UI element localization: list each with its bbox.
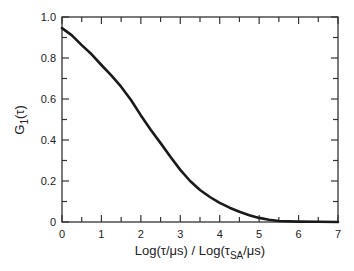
y-tick-label: 0.6 (41, 93, 56, 105)
x-axis-label: Log(τ/μs) / Log(τSA/μs) (135, 243, 265, 261)
chart: 0123456700.20.40.60.81.0 Log(τ/μs) / Log… (0, 0, 354, 271)
x-tick-label: 3 (177, 228, 183, 240)
x-tick-label: 1 (98, 228, 104, 240)
y-tick-label: 0 (50, 216, 56, 228)
y-tick-label: 0.2 (41, 175, 56, 187)
y-tick-label: 0.4 (41, 134, 56, 146)
x-tick-label: 6 (296, 228, 302, 240)
y-tick-label: 1.0 (41, 11, 56, 23)
x-tick-label: 7 (335, 228, 341, 240)
y-tick-label: 0.8 (41, 52, 56, 64)
x-tick-label: 0 (59, 228, 65, 240)
data-curve (62, 28, 338, 222)
x-tick-label: 5 (256, 228, 262, 240)
x-tick-label: 4 (217, 228, 223, 240)
x-tick-label: 2 (138, 228, 144, 240)
tick-labels: 0123456700.20.40.60.81.0 (41, 11, 341, 240)
y-axis-label: G1(τ) (12, 105, 30, 134)
